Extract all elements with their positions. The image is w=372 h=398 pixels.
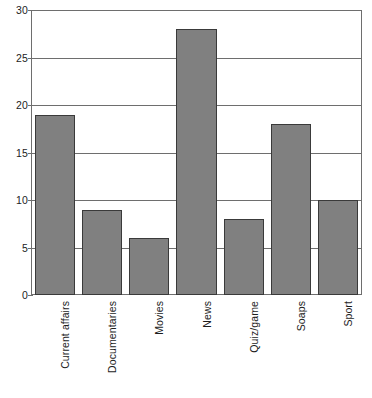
bar (176, 29, 216, 295)
x-axis-tick-label: Current affairs (60, 301, 71, 397)
bars (31, 10, 362, 295)
x-axis-tick-label: Quiz/game (249, 301, 260, 397)
x-axis: Current affairsDocumentariesMoviesNewsQu… (31, 297, 362, 398)
y-axis-tick-mark (28, 295, 33, 296)
x-axis-tick-label: Sport (343, 301, 354, 397)
x-axis-tick-label: Documentaries (107, 301, 118, 397)
bar (318, 200, 358, 295)
bar (35, 115, 75, 296)
bar (129, 238, 169, 295)
x-axis-tick-label: Movies (154, 301, 165, 397)
bar (271, 124, 311, 295)
x-axis-tick-label: News (202, 301, 213, 397)
bar (224, 219, 264, 295)
x-axis-tick-label: Soaps (296, 301, 307, 397)
bar-chart: 051015202530 Current affairsDocumentarie… (0, 0, 372, 398)
bar (82, 210, 122, 296)
